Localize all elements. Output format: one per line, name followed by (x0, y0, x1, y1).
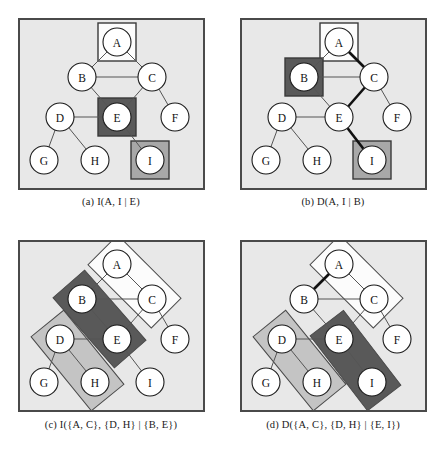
node-label-e: E (335, 334, 342, 346)
node-label-d: D (56, 112, 64, 124)
node-label-f: F (394, 334, 400, 346)
panel-c: ABCDEFGHI (18, 240, 205, 412)
node-g: G (30, 368, 58, 396)
node-label-h: H (313, 155, 321, 167)
node-label-d: D (278, 334, 286, 346)
node-label-i: I (148, 155, 152, 167)
node-e: E (325, 325, 353, 353)
node-i: I (136, 146, 164, 174)
node-f: F (383, 103, 411, 131)
caption-a: (a) I(A, I | E) (0, 196, 222, 207)
node-label-i: I (370, 377, 374, 389)
node-f: F (161, 325, 189, 353)
node-label-a: A (335, 259, 344, 271)
node-e: E (325, 103, 353, 131)
node-label-d: D (278, 112, 286, 124)
node-c: C (138, 285, 166, 313)
node-label-h: H (91, 377, 99, 389)
caption-b: (b) D(A, I | B) (222, 196, 444, 207)
node-b: B (68, 63, 96, 91)
node-label-b: B (78, 294, 86, 306)
node-d: D (46, 103, 74, 131)
node-label-i: I (370, 155, 374, 167)
panel-d: ABCDEFGHI (240, 240, 427, 412)
node-label-e: E (335, 112, 342, 124)
figure-sheet: ABCDEFGHI ABCDEFGHI ABCDEFGHI ABCDEFGHI … (0, 0, 444, 453)
node-label-d: D (56, 334, 64, 346)
node-b: B (68, 285, 96, 313)
node-label-g: G (40, 377, 48, 389)
node-i: I (358, 146, 386, 174)
node-g: G (30, 146, 58, 174)
node-i: I (358, 368, 386, 396)
node-label-c: C (148, 72, 156, 84)
node-label-c: C (370, 72, 378, 84)
node-label-f: F (172, 112, 178, 124)
node-b: B (290, 63, 318, 91)
node-a: A (103, 28, 131, 56)
graph-canvas-b: ABCDEFGHI (242, 20, 425, 188)
node-g: G (252, 146, 280, 174)
node-label-a: A (335, 37, 344, 49)
node-h: H (81, 146, 109, 174)
node-label-b: B (300, 72, 308, 84)
node-a: A (325, 250, 353, 278)
node-c: C (138, 63, 166, 91)
group-rect-ac-d (310, 242, 403, 328)
graph-canvas-d: ABCDEFGHI (242, 242, 425, 410)
node-h: H (303, 146, 331, 174)
graph-canvas-a: ABCDEFGHI (20, 20, 203, 188)
node-d: D (268, 103, 296, 131)
node-label-f: F (394, 112, 400, 124)
node-label-i: I (148, 377, 152, 389)
node-c: C (360, 285, 388, 313)
node-label-h: H (91, 155, 99, 167)
panel-a: ABCDEFGHI (18, 18, 205, 190)
node-label-e: E (113, 334, 120, 346)
caption-c: (c) I({A, C}, {D, H} | {B, E}) (0, 419, 222, 430)
node-g: G (252, 368, 280, 396)
node-d: D (46, 325, 74, 353)
node-label-e: E (113, 112, 120, 124)
node-label-c: C (370, 294, 378, 306)
node-e: E (103, 103, 131, 131)
node-f: F (161, 103, 189, 131)
node-c: C (360, 63, 388, 91)
node-label-g: G (40, 155, 48, 167)
node-label-g: G (262, 155, 270, 167)
node-a: A (325, 28, 353, 56)
caption-d: (d) D({A, C}, {D, H} | {E, I}) (222, 419, 444, 430)
node-i: I (136, 368, 164, 396)
node-label-a: A (113, 259, 122, 271)
node-b: B (290, 285, 318, 313)
node-d: D (268, 325, 296, 353)
node-label-f: F (172, 334, 178, 346)
group-rect-shape (310, 242, 403, 328)
graph-canvas-c: ABCDEFGHI (20, 242, 203, 410)
node-label-g: G (262, 377, 270, 389)
node-label-a: A (113, 37, 122, 49)
node-f: F (383, 325, 411, 353)
node-h: H (81, 368, 109, 396)
node-e: E (103, 325, 131, 353)
node-label-b: B (78, 72, 86, 84)
node-a: A (103, 250, 131, 278)
node-label-c: C (148, 294, 156, 306)
node-label-h: H (313, 377, 321, 389)
node-label-b: B (300, 294, 308, 306)
panel-b: ABCDEFGHI (240, 18, 427, 190)
node-h: H (303, 368, 331, 396)
